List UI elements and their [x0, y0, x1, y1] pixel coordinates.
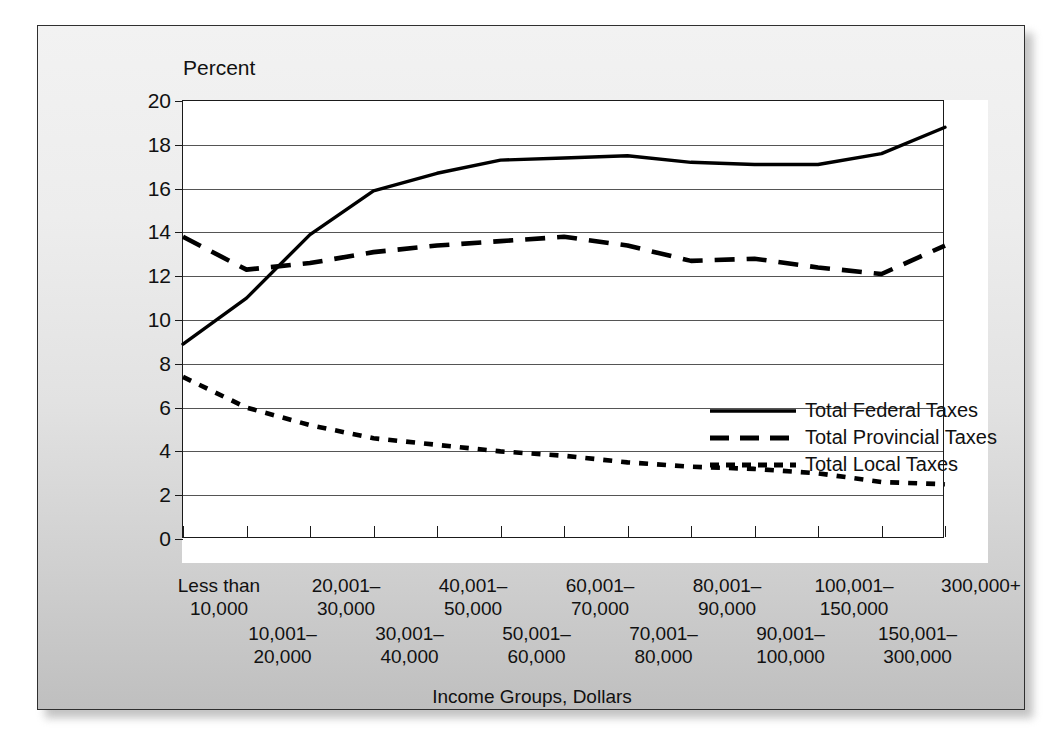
x-label-line-1: 20,001– — [312, 574, 381, 597]
y-axis-tick — [175, 495, 183, 496]
figure-root: Percent 02468101214161820 Total Federal … — [0, 0, 1059, 745]
x-label-line-1: 100,001– — [814, 574, 893, 597]
x-axis-category-labels: Less than10,00020,001–30,00040,001–50,00… — [75, 574, 1025, 684]
chart-legend: Total Federal TaxesTotal Provincial Taxe… — [710, 397, 1010, 478]
y-axis-tick — [175, 451, 183, 452]
y-axis-tick-label: 14 — [148, 220, 171, 244]
x-label-line-2: 300,000 — [878, 645, 957, 668]
y-axis-tick-label: 0 — [159, 527, 171, 551]
x-label-line-2: 40,000 — [375, 645, 444, 668]
x-axis-category-label: 90,001–100,000 — [756, 622, 825, 668]
x-axis-category-label: 30,001–40,000 — [375, 622, 444, 668]
y-axis-tick-label: 6 — [159, 396, 171, 420]
x-label-line-1: 80,001– — [693, 574, 762, 597]
y-axis-tick — [175, 364, 183, 365]
x-axis-category-label: 60,001–70,000 — [566, 574, 635, 620]
x-label-line-1: 30,001– — [375, 622, 444, 645]
y-axis-tick-label: 10 — [148, 308, 171, 332]
x-axis-category-label: 100,001–150,000 — [814, 574, 893, 620]
x-axis-title: Income Groups, Dollars — [38, 686, 1026, 708]
legend-item: Total Federal Taxes — [710, 397, 1010, 424]
x-label-line-2: 10,000 — [178, 597, 260, 620]
y-axis-tick-label: 18 — [148, 133, 171, 157]
x-label-line-2: 150,000 — [814, 597, 893, 620]
y-axis-tick — [175, 232, 183, 233]
x-axis-category-label: 150,001–300,000 — [878, 622, 957, 668]
x-label-line-1: 50,001– — [502, 622, 571, 645]
legend-line-swatch — [710, 431, 796, 445]
y-axis-tick-label: 20 — [148, 89, 171, 113]
y-axis-tick — [175, 539, 183, 540]
y-axis-tick-label: 4 — [159, 439, 171, 463]
x-label-line-2: 90,000 — [693, 597, 762, 620]
x-label-line-1: 150,001– — [878, 622, 957, 645]
y-axis-tick — [175, 408, 183, 409]
x-label-line-2: 80,000 — [629, 645, 698, 668]
x-label-line-1: 60,001– — [566, 574, 635, 597]
y-axis-tick — [175, 101, 183, 102]
y-axis-tick-label: 16 — [148, 177, 171, 201]
x-label-line-1: 70,001– — [629, 622, 698, 645]
y-axis-tick — [175, 320, 183, 321]
y-axis-tick-label: 2 — [159, 483, 171, 507]
figure-plate: Percent 02468101214161820 Total Federal … — [37, 25, 1025, 710]
y-axis-tick — [175, 189, 183, 190]
y-axis-tick-label: 12 — [148, 264, 171, 288]
x-axis-category-label: 80,001–90,000 — [693, 574, 762, 620]
y-axis-title: Percent — [183, 56, 255, 80]
y-axis-tick — [175, 145, 183, 146]
legend-label: Total Federal Taxes — [805, 399, 978, 422]
legend-label: Total Provincial Taxes — [805, 426, 997, 449]
x-axis-tick — [945, 526, 946, 537]
series-line — [183, 237, 945, 274]
x-label-line-2: 70,000 — [566, 597, 635, 620]
legend-item: Total Provincial Taxes — [710, 424, 1010, 451]
x-axis-category-label: 40,001–50,000 — [439, 574, 508, 620]
legend-item: Total Local Taxes — [710, 451, 1010, 478]
x-axis-category-label: 10,001–20,000 — [248, 622, 317, 668]
x-label-line-1: 300,000+ — [941, 574, 1021, 597]
x-label-line-2: 20,000 — [248, 645, 317, 668]
x-label-line-1: 10,001– — [248, 622, 317, 645]
x-axis-category-label: 300,000+ — [941, 574, 1021, 597]
legend-label: Total Local Taxes — [805, 453, 958, 476]
x-label-line-2: 50,000 — [439, 597, 508, 620]
x-label-line-2: 100,000 — [756, 645, 825, 668]
x-axis-category-label: 50,001–60,000 — [502, 622, 571, 668]
x-axis-category-label: 20,001–30,000 — [312, 574, 381, 620]
x-axis-category-label: Less than10,000 — [178, 574, 260, 620]
x-label-line-1: Less than — [178, 574, 260, 597]
legend-line-swatch — [710, 458, 796, 472]
x-label-line-1: 40,001– — [439, 574, 508, 597]
plot-area: 02468101214161820 Total Federal TaxesTot… — [182, 100, 944, 538]
x-label-line-1: 90,001– — [756, 622, 825, 645]
y-axis-tick — [175, 276, 183, 277]
y-axis-tick-label: 8 — [159, 352, 171, 376]
x-axis-category-label: 70,001–80,000 — [629, 622, 698, 668]
x-label-line-2: 30,000 — [312, 597, 381, 620]
legend-line-swatch — [710, 404, 796, 418]
x-label-line-2: 60,000 — [502, 645, 571, 668]
